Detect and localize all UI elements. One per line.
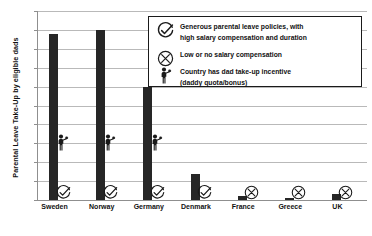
check-circle-icon-denmark [197, 185, 212, 200]
legend-item-label: Country has dad take-up incentive(daddy … [180, 67, 291, 88]
y-tick-mark [34, 87, 38, 88]
y-tick-mark [34, 106, 38, 107]
legend-label-line1: Country has dad take-up incentive [180, 67, 291, 78]
gridline-100% [37, 11, 367, 12]
gridline-40% [37, 124, 367, 125]
legend-label-line1: Generous parental leave policies, with [180, 22, 307, 33]
parental-leave-bar-chart: Parental Leave Take-Up by eligible dads … [0, 0, 372, 236]
cross-circle-icon-uk [338, 185, 353, 200]
legend-item-2: Low or no salary compensation [157, 50, 355, 67]
dad-figure-icon-norway [103, 134, 116, 151]
check-circle-icon-sweden [56, 185, 71, 200]
dad-figure-icon [157, 67, 174, 84]
chart-legend: Generous parental leave policies, withhi… [148, 16, 362, 87]
legend-label-line2: high salary compensation and duration [180, 33, 307, 44]
check-circle-icon-norway [103, 185, 118, 200]
gridline-30% [37, 143, 367, 144]
y-tick-mark [34, 68, 38, 69]
legend-label-line1: Low or no salary compensation [180, 50, 282, 61]
gridline-20% [37, 162, 367, 163]
bar-sweden [49, 34, 58, 200]
dad-figure-icon-germany [150, 134, 163, 151]
y-tick-mark [34, 162, 38, 163]
legend-item-label: Generous parental leave policies, withhi… [180, 22, 307, 43]
cross-circle-icon-greece [291, 185, 306, 200]
check-circle-icon-germany [150, 185, 165, 200]
bar-norway [96, 30, 105, 200]
y-tick-mark [34, 143, 38, 144]
y-tick-mark [34, 30, 38, 31]
x-tick-label-uk: UK [307, 203, 367, 210]
check-circle-icon [157, 22, 174, 39]
y-tick-mark [34, 200, 38, 201]
cross-circle-icon-france [244, 185, 259, 200]
y-axis-title: Parental Leave Take-Up by eligible dads [11, 13, 20, 203]
gridline-50% [37, 106, 367, 107]
y-tick-mark [34, 49, 38, 50]
legend-item-1: Generous parental leave policies, withhi… [157, 22, 355, 43]
y-tick-mark [34, 181, 38, 182]
cross-circle-icon [157, 50, 174, 67]
gridline-10% [37, 181, 367, 182]
legend-item-label: Low or no salary compensation [180, 50, 282, 61]
y-tick-mark [34, 11, 38, 12]
y-tick-mark [34, 124, 38, 125]
legend-item-3: Country has dad take-up incentive(daddy … [157, 67, 355, 88]
gridline-0% [37, 200, 367, 201]
legend-label-line2: (daddy quota/bonus) [180, 78, 291, 89]
dad-figure-icon-sweden [56, 134, 69, 151]
